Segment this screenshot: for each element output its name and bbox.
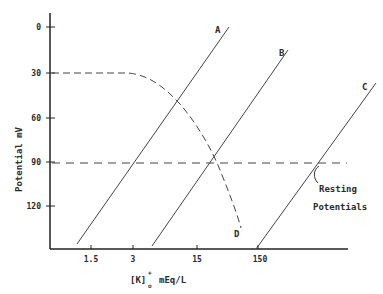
resting-label-2: Potentials xyxy=(313,202,367,212)
x-tick-3: 3 xyxy=(131,255,136,264)
x-tick-15: 15 xyxy=(192,255,202,264)
x-tick-150: 150 xyxy=(253,255,268,264)
chart: 0 30 60 90 120 1.5 3 15 150 Potential mV… xyxy=(0,0,383,294)
curve-d xyxy=(52,73,241,228)
line-c xyxy=(256,83,376,249)
x-axis-label-sup: + xyxy=(148,269,152,276)
y-tick-30: 30 xyxy=(31,69,41,78)
resting-label-1: Resting xyxy=(319,184,357,194)
line-b xyxy=(152,50,288,246)
y-tick-0: 0 xyxy=(36,23,41,32)
label-a: A xyxy=(215,25,221,35)
resting-pointer xyxy=(314,166,319,183)
y-tick-120: 120 xyxy=(27,202,42,211)
y-axis-label: Potential mV xyxy=(14,126,24,192)
x-axis-label-base: [K] xyxy=(130,275,146,285)
label-c: C xyxy=(362,82,367,92)
y-tick-90: 90 xyxy=(31,158,41,167)
label-b: B xyxy=(279,48,285,58)
x-axis-label: [K] + o mEq/L xyxy=(130,269,187,289)
x-tick-1.5: 1.5 xyxy=(84,255,99,264)
x-axis-label-sub: o xyxy=(148,282,152,289)
label-d: D xyxy=(234,229,240,239)
line-a xyxy=(77,27,229,244)
y-tick-60: 60 xyxy=(31,114,41,123)
x-axis-label-unit: mEq/L xyxy=(159,275,187,285)
